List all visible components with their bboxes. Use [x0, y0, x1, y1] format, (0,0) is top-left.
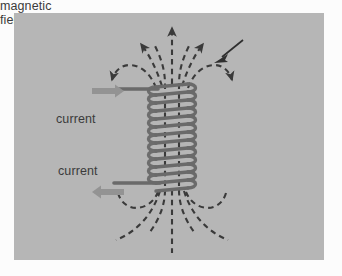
- field-line-outer-bottom-right: [184, 191, 228, 240]
- field-lines-callout-pointer: [214, 40, 243, 63]
- field-line-inner-right-lower: [179, 190, 194, 232]
- coil-front-strands: [156, 84, 188, 191]
- solenoid-coil: [149, 84, 196, 191]
- field-line-loop-bottom-right: [186, 192, 226, 208]
- field-line-inner-left-lower: [150, 190, 165, 232]
- field-line-outer-bottom-left: [116, 191, 160, 240]
- solenoid-diagram-artwork: [0, 0, 342, 276]
- field-line-splay-right: [182, 44, 203, 86]
- field-line-loop-top-left: [112, 65, 156, 88]
- label-current-bottom: current: [58, 165, 98, 179]
- label-current-top: current: [56, 113, 96, 127]
- current-arrow-top-right: [92, 85, 124, 98]
- figure-container: current current magnetic field lines: [0, 0, 342, 276]
- field-line-splay-left: [141, 44, 162, 86]
